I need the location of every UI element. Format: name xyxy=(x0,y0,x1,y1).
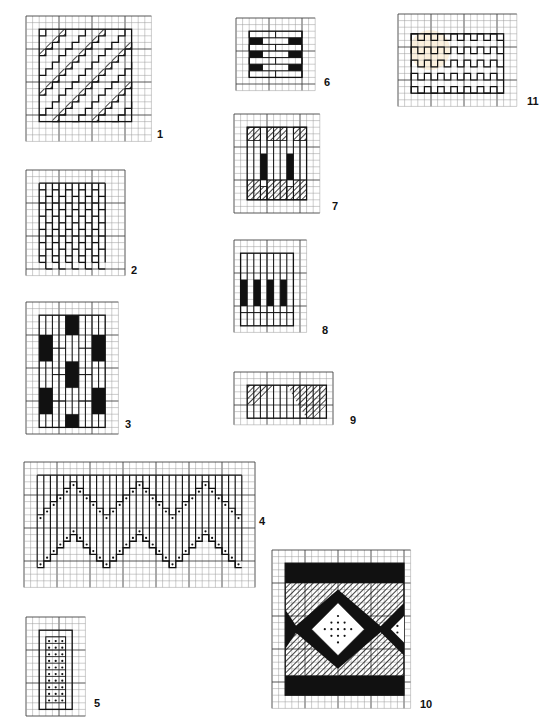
pattern-graphic xyxy=(236,18,318,96)
pattern-graphic xyxy=(26,16,154,146)
pattern-graphic xyxy=(234,114,324,216)
pattern-graphic xyxy=(398,14,520,110)
diagram-3 xyxy=(26,302,120,438)
diagram-label-3: 3 xyxy=(125,418,131,430)
diagram-label-6: 6 xyxy=(324,76,330,88)
diagram-9 xyxy=(234,372,342,434)
diagram-2 xyxy=(26,170,126,280)
diagram-label-11: 11 xyxy=(527,95,539,107)
diagram-7 xyxy=(234,114,324,216)
pattern-graphic xyxy=(234,372,342,434)
pattern-graphic xyxy=(24,462,254,590)
diagram-label-2: 2 xyxy=(131,264,137,276)
pattern-graphic xyxy=(272,550,416,716)
diagram-label7: 7 xyxy=(332,200,338,212)
diagram-4 xyxy=(24,462,254,590)
diagram-label-10: 10 xyxy=(420,698,432,710)
diagram-10 xyxy=(272,550,416,716)
diagram-label-1: 1 xyxy=(157,128,163,140)
diagram-8 xyxy=(234,240,314,340)
diagram-11 xyxy=(398,14,520,110)
diagram-5 xyxy=(26,617,88,715)
diagram-label-9: 9 xyxy=(350,414,356,426)
diagram-label-8: 8 xyxy=(322,324,328,336)
pattern-graphic xyxy=(26,302,120,438)
pattern-graphic xyxy=(234,240,314,340)
pattern-graphic xyxy=(26,617,88,715)
diagram-label-5: 5 xyxy=(94,697,100,709)
pattern-graphic xyxy=(26,170,126,280)
diagram-label-4: 4 xyxy=(259,515,265,527)
diagram-6 xyxy=(236,18,318,96)
diagram-1 xyxy=(26,16,154,146)
